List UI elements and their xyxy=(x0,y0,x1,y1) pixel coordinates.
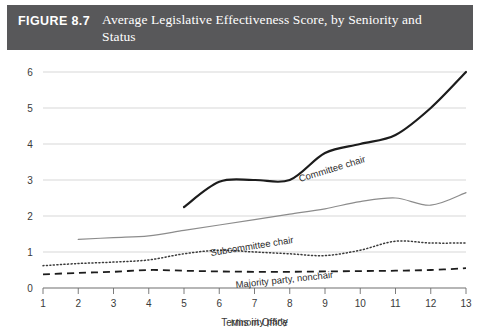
y-axis-tick-label: 4 xyxy=(27,139,33,150)
x-axis-tick-label: 1 xyxy=(40,298,46,309)
x-axis-title: Terms in Office xyxy=(221,317,288,328)
x-axis-tick-label: 6 xyxy=(216,298,222,309)
x-axis-tick-label: 11 xyxy=(390,298,401,309)
x-axis-tick-label: 2 xyxy=(75,298,81,309)
series-label: Subcommittee chair xyxy=(210,234,295,258)
x-axis-tick-label: 5 xyxy=(181,298,187,309)
y-axis-tick-label: 2 xyxy=(27,211,33,222)
y-axis-tick-label: 5 xyxy=(27,103,33,114)
x-axis-tick-label: 8 xyxy=(287,298,293,309)
series-line xyxy=(184,72,466,207)
series-line xyxy=(43,268,466,274)
x-axis-tick-label: 10 xyxy=(355,298,367,309)
figure-header-band: FIGURE 8.7 Average Legislative Effective… xyxy=(7,5,473,50)
figure-title: Average Legislative Effectiveness Score,… xyxy=(102,12,454,45)
y-axis-tick-label: 1 xyxy=(27,247,33,258)
x-axis-tick-label: 3 xyxy=(111,298,117,309)
y-axis-tick-labels: 0123456 xyxy=(27,67,33,294)
line-chart: 0123456 12345678910111213 Committee chai… xyxy=(0,52,481,332)
y-axis-tick-label: 0 xyxy=(27,283,33,294)
y-axis-tick-label: 3 xyxy=(27,175,33,186)
x-axis-tick-label: 13 xyxy=(460,298,472,309)
x-axis-tick-label: 12 xyxy=(425,298,437,309)
x-axis-tick-label: 7 xyxy=(252,298,258,309)
chart-plot-area: 0123456 12345678910111213 Committee chai… xyxy=(0,52,481,332)
x-axis-tick-label: 9 xyxy=(322,298,328,309)
x-axis-group xyxy=(43,288,466,294)
figure-container: FIGURE 8.7 Average Legislative Effective… xyxy=(0,0,481,332)
y-axis-tick-label: 6 xyxy=(27,67,33,78)
x-axis-tick-labels: 12345678910111213 xyxy=(40,298,472,309)
figure-number-label: FIGURE 8.7 xyxy=(18,12,90,29)
x-axis-tick-label: 4 xyxy=(146,298,152,309)
series-label: Committee chair xyxy=(297,153,366,184)
